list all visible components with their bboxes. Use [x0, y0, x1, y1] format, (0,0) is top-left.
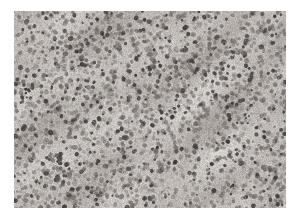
- tissue-image: [14, 11, 286, 208]
- micrograph-plate: [14, 11, 286, 208]
- figure-frame: [0, 0, 300, 220]
